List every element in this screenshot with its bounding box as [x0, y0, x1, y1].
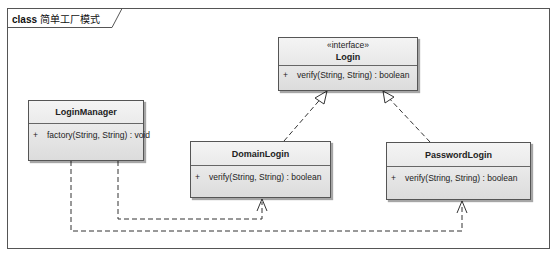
class-login-manager[interactable]: LoginManager +factory(String, String) : …	[28, 100, 144, 161]
class-password-login[interactable]: PasswordLogin +verify(String, String) : …	[386, 142, 531, 200]
operation-signature: verify(String, String) : boolean	[209, 172, 321, 182]
class-name: DomainLogin	[191, 148, 330, 160]
class-domain-login[interactable]: DomainLogin +verify(String, String) : bo…	[190, 141, 331, 198]
class-header: LoginManager	[29, 101, 143, 124]
class-header: PasswordLogin	[387, 143, 530, 167]
visibility-public: +	[283, 70, 297, 80]
visibility-public: +	[33, 130, 47, 140]
operation-signature: verify(String, String) : boolean	[297, 70, 409, 80]
stereotype-label: «interface»	[279, 40, 417, 51]
operation: +verify(String, String) : boolean	[387, 167, 530, 183]
visibility-public: +	[195, 172, 209, 182]
operation-signature: verify(String, String) : boolean	[405, 173, 517, 183]
realization-password-login	[386, 95, 430, 142]
class-name: LoginManager	[29, 106, 143, 118]
realization-domain-login	[284, 95, 324, 141]
operation: +factory(String, String) : void	[29, 124, 143, 140]
operation-signature: factory(String, String) : void	[47, 130, 150, 140]
visibility-public: +	[391, 173, 405, 183]
class-header: «interface» Login	[279, 38, 417, 66]
class-name: Login	[279, 51, 417, 63]
class-name: PasswordLogin	[387, 149, 530, 161]
operation: +verify(String, String) : boolean	[191, 166, 330, 182]
operation: +verify(String, String) : boolean	[279, 66, 417, 80]
realization-arrowhead-icon	[315, 91, 327, 104]
class-header: DomainLogin	[191, 142, 330, 166]
realization-arrowhead-icon	[383, 91, 394, 103]
class-login[interactable]: «interface» Login +verify(String, String…	[278, 37, 418, 91]
